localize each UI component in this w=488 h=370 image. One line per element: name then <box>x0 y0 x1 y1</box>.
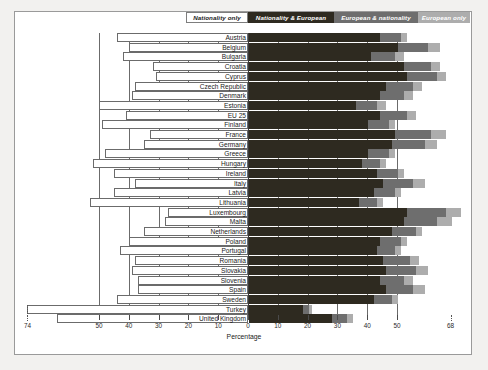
axis-tick <box>99 315 100 320</box>
axis-tick-label: 40 <box>115 322 143 329</box>
x-axis-title: Percentage <box>15 333 473 340</box>
axis-tick <box>188 315 189 320</box>
axis-tick-label: 50 <box>85 322 113 329</box>
axis-tick <box>27 315 29 321</box>
axis-tick-label: 40 <box>353 322 381 329</box>
axis-tick <box>451 315 453 321</box>
axis-tick-label: 30 <box>323 322 351 329</box>
axis-tick <box>159 315 160 320</box>
axis-tick-label: 50 <box>383 322 411 329</box>
axis-tick <box>278 315 279 320</box>
axis-tick <box>248 315 249 320</box>
chart-canvas: Nationality onlyNationality & EuropeanEu… <box>14 11 472 355</box>
axis-tick-label: 10 <box>264 322 292 329</box>
axis-tick-label: 20 <box>294 322 322 329</box>
axis-tick-label: 68 <box>437 322 465 329</box>
axis-tick <box>308 315 309 320</box>
axis-tick <box>367 315 368 320</box>
figure-frame: Nationality onlyNationality & EuropeanEu… <box>0 0 488 370</box>
axis-tick-label: 74 <box>13 322 41 329</box>
axis-tick-label: 0 <box>234 322 262 329</box>
axis-tick-label: 10 <box>204 322 232 329</box>
axis-tick-label: 20 <box>174 322 202 329</box>
x-axis: 7450403020100102030405068Percentage <box>15 12 473 356</box>
axis-tick-label: 30 <box>145 322 173 329</box>
axis-tick <box>337 315 338 320</box>
axis-tick <box>129 315 130 320</box>
axis-tick <box>397 315 398 320</box>
axis-tick <box>218 315 219 320</box>
